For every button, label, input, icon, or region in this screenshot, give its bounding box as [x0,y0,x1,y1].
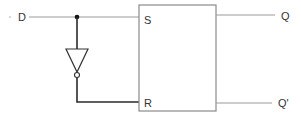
block-input-label-r: R [144,97,152,109]
input-label-d: D [18,11,26,23]
output-label-q-prime: Q' [278,97,289,109]
d-latch-diagram: D S R Q Q' [0,0,301,118]
input-terminal-dot [9,16,11,18]
wire-inverter-to-r [77,78,139,103]
block-input-label-s: S [144,14,151,26]
inverter-bubble-icon [75,73,80,78]
output-label-q: Q [281,10,290,22]
inverter-triangle-icon [66,49,88,72]
